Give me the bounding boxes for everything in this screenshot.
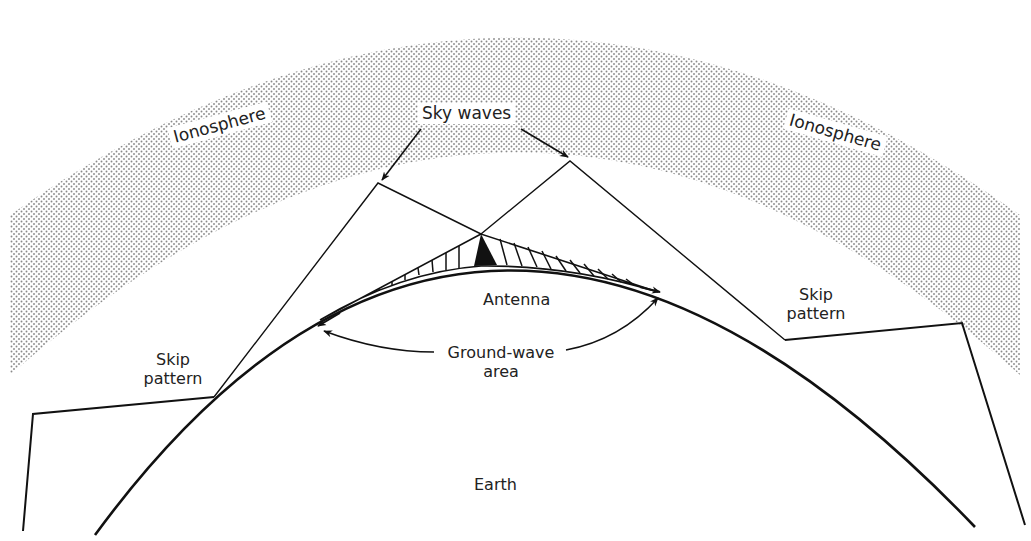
earth-label: Earth xyxy=(474,475,517,494)
ground-wave-label-line2: area xyxy=(434,362,568,381)
ground-wave-area-label: Ground-wave area xyxy=(434,343,568,381)
skip-pattern-right xyxy=(785,323,1025,525)
ground-wave-label-arrow-right xyxy=(566,298,658,350)
skip-pattern-left xyxy=(23,397,214,531)
sky-waves-label: Sky waves xyxy=(418,103,515,124)
radio-propagation-diagram xyxy=(0,0,1031,541)
ground-wave-label-arrow-left xyxy=(324,331,434,352)
skip-pattern-left-label: Skip pattern xyxy=(138,350,208,388)
skip-left-line2: pattern xyxy=(138,369,208,388)
skip-right-line2: pattern xyxy=(781,304,851,323)
antenna-label: Antenna xyxy=(483,290,550,309)
ground-wave-label-line1: Ground-wave xyxy=(434,343,568,362)
skip-right-line1: Skip xyxy=(781,285,851,304)
skip-left-line1: Skip xyxy=(138,350,208,369)
ground-wave-arrow-right xyxy=(640,287,660,292)
skip-pattern-right-label: Skip pattern xyxy=(781,285,851,323)
